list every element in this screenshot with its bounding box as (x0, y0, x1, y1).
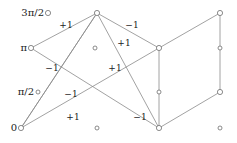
edge-weight-8: −1 (133, 113, 146, 122)
y-tick-pi: π (20, 43, 27, 53)
node-pi2-right[interactable] (217, 89, 222, 94)
node-pi-right[interactable] (218, 46, 222, 50)
graph-figure: 3π/2ππ/20 +1−1+1−1+1−1+1−1 (0, 0, 237, 143)
edge-pi-cross-to-3pi2-right (159, 13, 220, 48)
edge-weight-4: −1 (45, 64, 58, 73)
y-tick-0: 0 (11, 123, 17, 133)
node-pi2-left[interactable] (36, 90, 40, 94)
node-3pi2-left[interactable] (45, 10, 50, 15)
node-pi-left[interactable] (28, 45, 33, 50)
edge-pi2-right-to-zero-cross (159, 92, 220, 128)
node-3pi2-mid[interactable] (94, 10, 99, 15)
node-zero-right[interactable] (218, 126, 222, 130)
node-zero-cross[interactable] (156, 125, 161, 130)
edge-weight-6: −1 (64, 90, 77, 99)
node-pi-mid[interactable] (93, 46, 97, 50)
edge-pi-left-to-3pi2-mid (31, 13, 97, 48)
edge-weight-5: +1 (108, 64, 121, 73)
node-pi2-mid[interactable] (157, 90, 161, 94)
y-tick-3pi-over-2: 3π/2 (21, 8, 44, 18)
y-tick-pi-over-2: π/2 (18, 87, 34, 97)
node-zero-mid[interactable] (95, 126, 99, 130)
edge-weight-2: −1 (125, 21, 138, 30)
edge-zero-left-to-3pi2-mid-b (21, 13, 97, 128)
edge-weight-3: +1 (117, 39, 130, 48)
edge-weight-7: +1 (66, 113, 79, 122)
edge-weight-1: +1 (59, 21, 72, 30)
node-zero-left[interactable] (18, 125, 23, 130)
node-pi-cross[interactable] (156, 45, 161, 50)
node-3pi2-right[interactable] (217, 10, 222, 15)
